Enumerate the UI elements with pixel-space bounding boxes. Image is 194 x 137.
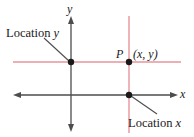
callout-label-location-y-variable: y	[54, 26, 60, 40]
leader-line-location-y	[44, 38, 69, 61]
y-axis-arrow-down-icon	[68, 124, 74, 132]
point-coordinates-label: (x, y)	[133, 48, 158, 60]
point-label-p: P	[116, 48, 123, 60]
leader-line-location-x	[131, 96, 157, 114]
y-axis-label: y	[67, 3, 72, 15]
point-marker-location-x	[126, 92, 132, 98]
x-axis-label: x	[180, 88, 185, 100]
plotted-points	[68, 59, 132, 98]
coordinate-plane-figure: Location y Location x y x P (x, y)	[0, 0, 194, 137]
point-marker-p	[126, 59, 132, 65]
callout-label-location-x-variable: x	[176, 116, 182, 130]
y-axis-arrow-up-icon	[68, 16, 74, 24]
callout-label-location-x: Location x	[128, 117, 181, 130]
point-marker-location-y	[68, 59, 74, 65]
callout-label-location-y: Location y	[6, 27, 59, 40]
x-axis-arrow-right-icon	[170, 92, 178, 98]
x-axis-arrow-left-icon	[13, 92, 21, 98]
